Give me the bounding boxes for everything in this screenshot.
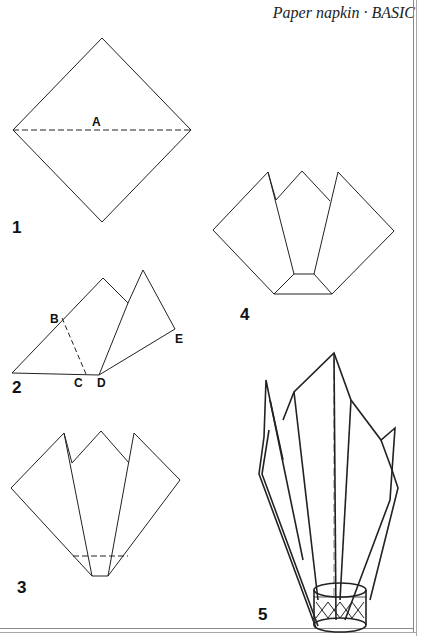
step-number-2: 2 bbox=[12, 378, 21, 398]
label-d: D bbox=[97, 376, 106, 390]
step-number-4: 4 bbox=[240, 305, 249, 325]
step-number-1: 1 bbox=[12, 218, 21, 238]
step-2-diagram bbox=[12, 270, 175, 375]
step-4-diagram bbox=[213, 171, 394, 294]
step-number-3: 3 bbox=[17, 578, 26, 598]
label-c: C bbox=[74, 376, 83, 390]
label-e: E bbox=[175, 332, 183, 346]
step-number-5: 5 bbox=[258, 605, 267, 625]
label-b: B bbox=[50, 312, 59, 326]
fold-diagrams bbox=[0, 0, 425, 638]
step-1-diagram bbox=[13, 38, 191, 222]
label-a: A bbox=[92, 115, 101, 129]
step-5-napkin-in-ring bbox=[259, 353, 398, 632]
step-3-diagram bbox=[11, 431, 180, 576]
